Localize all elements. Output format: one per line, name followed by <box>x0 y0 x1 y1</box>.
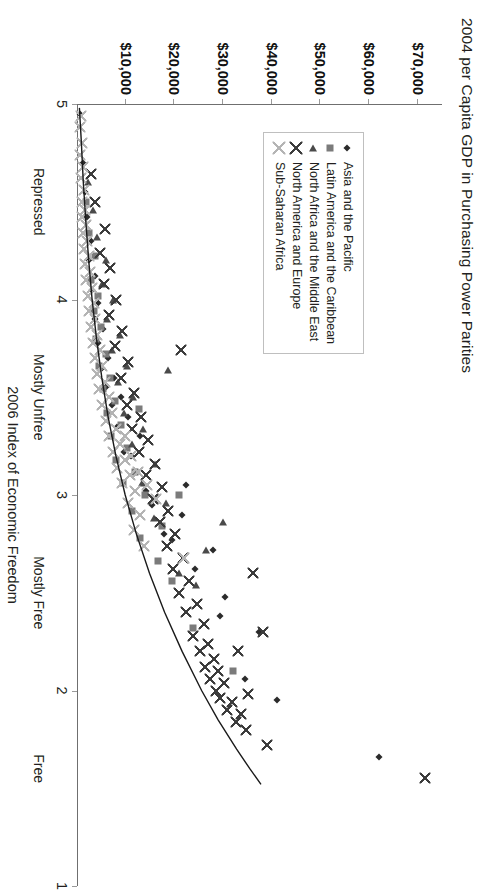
legend-item[interactable]: Asia and the Pacific <box>339 140 356 344</box>
cross-marker-icon <box>290 140 303 156</box>
diamond-marker-icon <box>341 140 354 156</box>
trendline <box>77 104 442 886</box>
freedom-band-label: Repressed <box>31 168 47 236</box>
freedom-band-label: Free <box>31 754 47 783</box>
legend: Asia and the PacificLatin America and th… <box>263 132 364 354</box>
legend-item-label: Sub-Saharan Africa <box>273 162 286 270</box>
legend-item-label: Asia and the Pacific <box>341 162 354 272</box>
square-marker-icon <box>324 140 337 156</box>
value-tick-label: $40,000 <box>264 43 280 95</box>
value-tick-label: $30,000 <box>215 43 231 95</box>
plot-area: $10,000$20,000$30,000$40,000$50,000$60,0… <box>77 104 442 886</box>
category-tick-label: 2 <box>54 686 70 694</box>
legend-item-label: North America and Europe <box>290 162 303 309</box>
x-axis-title: 2006 Index of Economic Freedom <box>5 386 21 604</box>
freedom-band-label: Mostly Unfree <box>31 354 47 440</box>
legend-item[interactable]: Sub-Saharan Africa <box>271 140 288 344</box>
cross-light-marker-icon <box>273 140 286 156</box>
category-tick-label: 5 <box>54 100 70 108</box>
chart-stage: 2004 per Capita GDP in Purchasing Power … <box>0 0 488 896</box>
value-tick-label: $70,000 <box>410 43 426 95</box>
category-tick-label: 4 <box>54 295 70 303</box>
legend-item[interactable]: North Africa and the Middle East <box>305 140 322 344</box>
legend-item-label: North Africa and the Middle East <box>307 162 320 341</box>
legend-item[interactable]: North America and Europe <box>288 140 305 344</box>
freedom-band-label: Mostly Free <box>31 556 47 629</box>
value-tick-label: $10,000 <box>118 43 134 95</box>
category-tick <box>72 886 77 887</box>
chart-title: 2004 per Capita GDP in Purchasing Power … <box>458 18 476 373</box>
category-tick-label: 1 <box>54 882 70 890</box>
category-tick-label: 3 <box>54 491 70 499</box>
legend-item[interactable]: Latin America and the Caribbean <box>322 140 339 344</box>
triangle-marker-icon <box>307 140 320 156</box>
legend-item-label: Latin America and the Caribbean <box>324 162 337 344</box>
value-tick-label: $50,000 <box>312 43 328 95</box>
value-tick-label: $20,000 <box>166 43 182 95</box>
value-tick-label: $60,000 <box>361 43 377 95</box>
